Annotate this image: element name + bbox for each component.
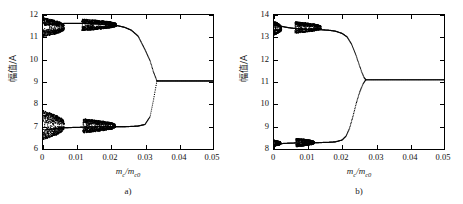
ytick-label-b-5: 13 [251, 32, 269, 41]
ytick-label-a-5: 11 [20, 32, 38, 41]
xtick-label-b-0: 0 [259, 153, 287, 162]
plot-canvas-a [43, 15, 213, 149]
x-axis-title-b: mc/mc0 [273, 166, 445, 178]
panel-caption-b: b) [273, 186, 445, 196]
xtick-label-b-4: 0.04 [396, 153, 424, 162]
x-axis-title-b-sub2: c0 [365, 171, 371, 178]
xtick-label-b-1: 0.01 [293, 153, 321, 162]
x-axis-title-a: mc/mc0 [42, 166, 214, 178]
xtick-label-b-2: 0.02 [327, 153, 355, 162]
xtick-label-b-3: 0.03 [362, 153, 390, 162]
bifurcation-figure: 0 0.01 0.02 0.03 0.04 0.05 6 7 8 9 10 11… [0, 0, 463, 204]
x-axis-title-a-mid: /m [125, 166, 134, 176]
ytick-label-b-0: 8 [251, 144, 269, 153]
ytick-label-a-1: 7 [20, 122, 38, 131]
xtick-label-a-0: 0 [28, 153, 56, 162]
ytick-label-b-2: 10 [251, 99, 269, 108]
panel-b: 0 0.01 0.02 0.03 0.04 0.05 8 9 10 11 12 … [231, 0, 462, 204]
y-axis-title-b: 幅值/A [237, 41, 250, 97]
panel-a: 0 0.01 0.02 0.03 0.04 0.05 6 7 8 9 10 11… [0, 0, 231, 204]
panel-caption-a: a) [42, 186, 214, 196]
ytick-label-a-4: 10 [20, 55, 38, 64]
ytick-label-a-3: 9 [20, 77, 38, 86]
ytick-label-a-6: 12 [20, 10, 38, 19]
x-axis-title-a-sub2: c0 [134, 171, 140, 178]
xtick-label-a-2: 0.02 [96, 153, 124, 162]
xtick-label-a-4: 0.04 [165, 153, 193, 162]
y-axis-title-a: 幅值/A [6, 41, 19, 97]
x-axis-title-b-mid: /m [356, 166, 365, 176]
ytick-label-b-1: 9 [251, 122, 269, 131]
plot-canvas-b [274, 15, 444, 149]
ytick-label-b-6: 14 [251, 10, 269, 19]
xtick-label-a-1: 0.01 [62, 153, 90, 162]
xtick-label-b-5: 0.05 [429, 153, 457, 162]
xtick-label-a-3: 0.03 [131, 153, 159, 162]
plot-area-a [42, 14, 214, 150]
plot-area-b [273, 14, 445, 150]
xtick-label-a-5: 0.05 [198, 153, 226, 162]
ytick-label-b-4: 12 [251, 55, 269, 64]
ytick-label-a-2: 8 [20, 99, 38, 108]
ytick-label-b-3: 11 [251, 77, 269, 86]
ytick-label-a-0: 6 [20, 144, 38, 153]
